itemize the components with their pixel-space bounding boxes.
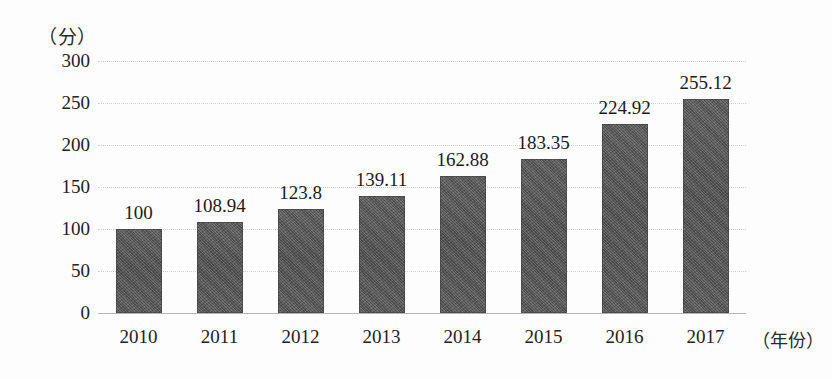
y-axis-tick-label: 150 — [26, 176, 90, 198]
bar[interactable] — [197, 222, 243, 314]
y-axis-tick-label: 200 — [26, 134, 90, 156]
bar-slot: 183.35 — [503, 61, 584, 313]
y-axis-tick-label: 50 — [26, 260, 90, 282]
x-axis-tick-label: 2017 — [687, 326, 725, 348]
bars-layer: 100108.94123.8139.11162.88183.35224.9225… — [98, 61, 746, 313]
bar[interactable] — [116, 229, 162, 313]
bar[interactable] — [278, 209, 324, 313]
bar[interactable] — [521, 159, 567, 313]
bar-slot: 162.88 — [422, 61, 503, 313]
x-axis-tick-label: 2014 — [444, 326, 482, 348]
x-axis-tick-label: 2011 — [201, 326, 238, 348]
y-axis-tick-label: 0 — [26, 302, 90, 324]
bar-value-label: 162.88 — [436, 150, 488, 169]
x-axis-unit-label: （年份） — [752, 326, 824, 352]
bar[interactable] — [602, 124, 648, 313]
bar-slot: 139.11 — [341, 61, 422, 313]
plot-area: 100108.94123.8139.11162.88183.35224.9225… — [98, 61, 746, 313]
bar-chart: （分） 100108.94123.8139.11162.88183.35224.… — [0, 0, 832, 379]
bar-slot: 100 — [98, 61, 179, 313]
bar-value-label: 255.12 — [679, 73, 731, 92]
bar-slot: 255.12 — [665, 61, 746, 313]
bar-value-label: 108.94 — [193, 196, 245, 215]
gridline — [98, 313, 746, 314]
x-axis-tick-label: 2012 — [282, 326, 320, 348]
bar[interactable] — [440, 176, 486, 313]
x-axis-tick-label: 2013 — [363, 326, 401, 348]
y-axis-tick-label: 250 — [26, 92, 90, 114]
bar-value-label: 123.8 — [279, 183, 322, 202]
bar-slot: 123.8 — [260, 61, 341, 313]
y-axis-unit-label: （分） — [38, 22, 97, 49]
bar-slot: 108.94 — [179, 61, 260, 313]
bar-slot: 224.92 — [584, 61, 665, 313]
bar[interactable] — [683, 99, 729, 313]
bar-value-label: 139.11 — [356, 170, 408, 189]
bar[interactable] — [359, 196, 405, 313]
y-axis-tick-label: 100 — [26, 218, 90, 240]
bar-value-label: 224.92 — [598, 98, 650, 117]
bar-value-label: 183.35 — [517, 133, 569, 152]
x-axis-tick-label: 2015 — [525, 326, 563, 348]
x-axis-tick-label: 2010 — [120, 326, 158, 348]
bar-value-label: 100 — [124, 203, 153, 222]
x-axis-tick-label: 2016 — [606, 326, 644, 348]
y-axis-tick-label: 300 — [26, 50, 90, 72]
